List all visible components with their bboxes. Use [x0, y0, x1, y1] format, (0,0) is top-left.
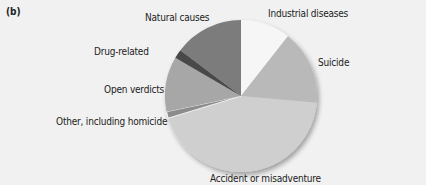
label-accident-or-misadventure: Accident or misadventure — [210, 173, 321, 184]
label-industrial-diseases: Industrial diseases — [268, 8, 348, 19]
pie-chart — [0, 0, 426, 185]
label-open-verdicts: Open verdicts — [104, 84, 164, 95]
label-natural-causes: Natural causes — [145, 12, 209, 23]
label-suicide: Suicide — [318, 57, 349, 68]
label-other-including-homicide: Other, including homicide — [56, 116, 167, 127]
label-drug-related: Drug-related — [94, 46, 149, 57]
